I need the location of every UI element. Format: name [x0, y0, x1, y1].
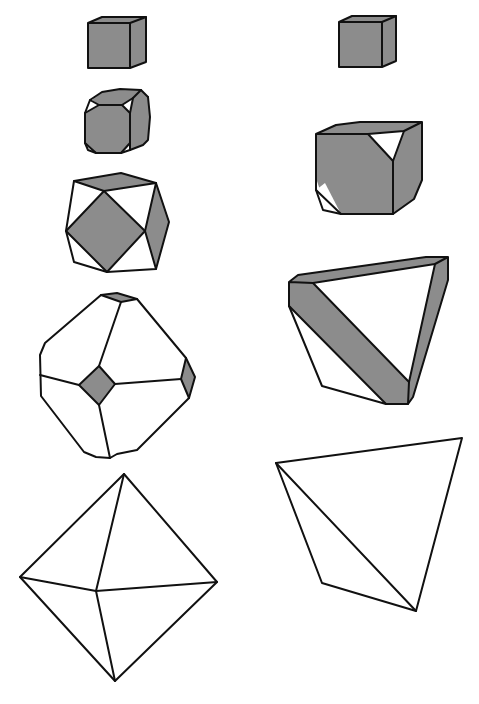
crystal-form-diagram [0, 0, 479, 704]
cuboctahedron-shape [66, 173, 169, 272]
truncated-tetrahedron-shape [289, 257, 448, 404]
cube-tetra-truncated-shape [316, 122, 422, 214]
cube-right-shape [339, 16, 396, 67]
truncated-octahedron-shape [40, 293, 195, 458]
truncated-cube-shape [85, 89, 150, 153]
octahedron-shape [20, 474, 217, 681]
cube-left-shape [88, 17, 146, 68]
tetrahedron-shape [276, 438, 462, 611]
